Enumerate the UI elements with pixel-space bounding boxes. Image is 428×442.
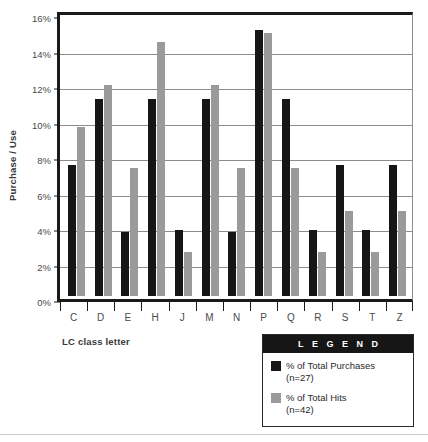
x-tick-label-t: T [359, 312, 386, 323]
bar-group-r [304, 18, 331, 296]
bar-groups [63, 18, 411, 296]
bar-group-z [384, 18, 411, 296]
x-tick-label-e: E [114, 312, 141, 323]
x-tick-mark [114, 302, 141, 311]
legend-swatch-purchases [271, 361, 281, 371]
x-tick-label-m: M [196, 312, 223, 323]
y-tick-label: 2% [10, 261, 60, 272]
x-axis-ticks [60, 302, 413, 311]
x-tick-label-n: N [223, 312, 250, 323]
x-tick-mark [60, 302, 87, 311]
x-tick-label-z: Z [386, 312, 413, 323]
bar-e-purchases [121, 232, 129, 296]
bar-group-s [331, 18, 358, 296]
bar-z-purchases [389, 165, 397, 296]
bar-e-hits [130, 168, 138, 296]
legend-title: L E G E N D [263, 335, 413, 353]
bar-j-hits [184, 252, 192, 296]
bar-c-hits [77, 127, 85, 296]
x-axis-tick-labels: CDEHJMNPQRSTZ [60, 312, 413, 323]
bar-c-purchases [68, 165, 76, 296]
bar-s-purchases [336, 165, 344, 296]
bar-t-hits [371, 252, 379, 296]
x-tick-mark [386, 302, 413, 311]
bar-group-p [250, 18, 277, 296]
bar-group-j [170, 18, 197, 296]
bar-d-purchases [95, 99, 103, 296]
y-tick-label: 4% [10, 226, 60, 237]
bar-z-hits [398, 211, 406, 296]
x-tick-mark [277, 302, 304, 311]
bar-p-purchases [255, 30, 263, 296]
bar-group-e [117, 18, 144, 296]
y-tick-label: 6% [10, 190, 60, 201]
legend-entry-purchases: % of Total Purchases(n=27) [271, 360, 407, 384]
bar-group-c [63, 18, 90, 296]
x-tick-label-d: D [87, 312, 114, 323]
legend-body: % of Total Purchases(n=27)% of Total Hit… [263, 353, 413, 426]
y-tick-label: 14% [10, 48, 60, 59]
x-tick-label-p: P [250, 312, 277, 323]
bar-group-q [277, 18, 304, 296]
x-tick-label-r: R [304, 312, 331, 323]
x-tick-mark [250, 302, 277, 311]
legend-entry-sublabel: (n=27) [286, 372, 375, 384]
bar-n-hits [237, 168, 245, 296]
bar-t-purchases [362, 230, 370, 296]
x-axis-title: LC class letter [62, 336, 130, 347]
bar-m-purchases [202, 99, 210, 296]
bar-h-purchases [148, 99, 156, 296]
bar-j-purchases [175, 230, 183, 296]
bar-group-m [197, 18, 224, 296]
legend: L E G E N D % of Total Purchases(n=27)% … [262, 334, 414, 427]
x-tick-mark [141, 302, 168, 311]
bar-q-hits [291, 168, 299, 296]
bar-group-t [357, 18, 384, 296]
legend-entry-sublabel: (n=42) [286, 404, 347, 416]
legend-entry-label: % of Total Purchases(n=27) [286, 360, 375, 384]
x-tick-label-c: C [60, 312, 87, 323]
x-tick-mark [304, 302, 331, 311]
x-tick-label-j: J [169, 312, 196, 323]
legend-swatch-hits [271, 393, 281, 403]
bar-s-hits [345, 211, 353, 296]
bar-r-purchases [309, 230, 317, 296]
y-tick-label: 8% [10, 155, 60, 166]
x-tick-mark [359, 302, 386, 311]
x-tick-mark [169, 302, 196, 311]
y-tick-label: 10% [10, 119, 60, 130]
bar-n-purchases [228, 232, 236, 296]
x-tick-label-s: S [332, 312, 359, 323]
plot-wrapper: 0%2%4%6%8%10%12%14%16% [57, 12, 413, 302]
plot-area: 0%2%4%6%8%10%12%14%16% [57, 12, 413, 302]
bar-p-hits [264, 33, 272, 296]
x-tick-mark [87, 302, 114, 311]
bar-m-hits [211, 85, 219, 296]
x-tick-mark [196, 302, 223, 311]
y-tick-label: 0% [10, 297, 60, 308]
bar-r-hits [318, 252, 326, 296]
legend-entry-hits: % of Total Hits(n=42) [271, 392, 407, 416]
x-tick-label-h: H [141, 312, 168, 323]
bottom-divider [0, 434, 428, 435]
chart-page: Purchase / Use 0%2%4%6%8%10%12%14%16% CD… [0, 0, 428, 442]
bar-group-d [90, 18, 117, 296]
bar-d-hits [104, 85, 112, 296]
legend-entry-label: % of Total Hits(n=42) [286, 392, 347, 416]
bar-group-h [143, 18, 170, 296]
bar-q-purchases [282, 99, 290, 296]
y-tick-label: 12% [10, 84, 60, 95]
bar-group-n [224, 18, 251, 296]
x-tick-mark [332, 302, 359, 311]
x-tick-label-q: Q [277, 312, 304, 323]
x-tick-mark [223, 302, 250, 311]
bar-h-hits [157, 42, 165, 296]
y-tick-label: 16% [10, 13, 60, 24]
